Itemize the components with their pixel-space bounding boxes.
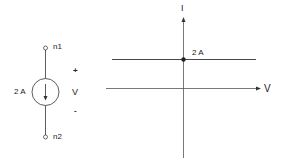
node-n1-label: n1 (53, 43, 62, 51)
x-axis-arrow-icon (256, 87, 261, 91)
voltage-label: V (72, 88, 78, 97)
minus-sign: - (74, 107, 77, 115)
intercept-dot (181, 57, 185, 61)
y-axis-arrow-icon (182, 17, 186, 22)
x-axis-label: V (264, 84, 271, 94)
node-n2-label: n2 (53, 133, 62, 141)
node-n2-terminal (44, 135, 48, 139)
plus-sign: + (73, 67, 78, 75)
diagram-canvas (0, 0, 284, 162)
node-n1-terminal (44, 46, 48, 50)
source-value-label: 2 A (14, 88, 26, 96)
intercept-label: 2 A (192, 49, 204, 57)
y-axis-label: I (181, 4, 184, 13)
